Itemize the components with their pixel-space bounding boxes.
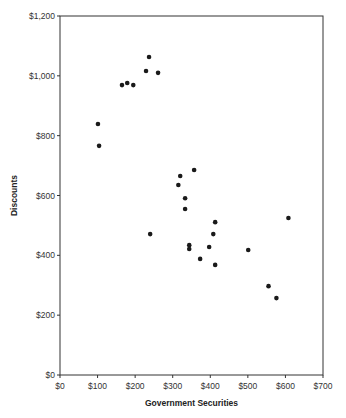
x-tick-label: $500 [238, 381, 257, 391]
y-tick-label: $1,000 [29, 71, 55, 81]
x-tick-label: $600 [276, 381, 295, 391]
data-point-marker [192, 168, 197, 173]
data-point-marker [147, 55, 152, 60]
y-axis: $0$200$400$600$800$1,000$1,200 [29, 11, 60, 380]
data-point-marker [211, 232, 216, 237]
data-point-marker [97, 144, 102, 149]
y-tick-label: $200 [36, 310, 55, 320]
x-tick-label: $0 [55, 381, 65, 391]
x-tick-label: $100 [88, 381, 107, 391]
data-point-marker [213, 263, 218, 268]
x-tick-label: $200 [126, 381, 145, 391]
y-tick-label: $600 [36, 191, 55, 201]
y-tick-label: $1,200 [29, 11, 55, 21]
x-tick-label: $400 [201, 381, 220, 391]
y-tick-label: $0 [46, 370, 56, 380]
y-tick-label: $800 [36, 131, 55, 141]
data-point-marker [266, 284, 271, 289]
x-axis-title: Government Securities [145, 398, 238, 408]
data-point-marker [183, 196, 188, 201]
data-point-marker [274, 296, 279, 301]
data-point-marker [131, 83, 136, 88]
data-point-marker [207, 245, 212, 250]
data-point-marker [187, 247, 192, 252]
data-point-marker [96, 122, 101, 127]
x-axis: $0$100$200$300$400$500$600$700 [55, 375, 332, 391]
plot-area [60, 16, 323, 375]
data-point-marker [125, 81, 130, 86]
data-point-marker [176, 183, 181, 188]
y-tick-label: $400 [36, 250, 55, 260]
data-point-marker [156, 71, 161, 76]
data-point-marker [246, 248, 251, 253]
data-point-marker [120, 83, 125, 88]
y-axis-title: Discounts [9, 175, 19, 216]
data-point-marker [198, 257, 203, 262]
x-tick-label: $300 [163, 381, 182, 391]
data-point-marker [144, 69, 149, 74]
scatter-chart: $0$200$400$600$800$1,000$1,200 $0$100$20… [0, 0, 346, 418]
data-point-marker [183, 207, 188, 212]
x-tick-label: $700 [314, 381, 333, 391]
data-point-marker [148, 232, 153, 237]
data-point-marker [286, 216, 291, 221]
plot-border [60, 16, 323, 375]
data-point-marker [213, 220, 218, 225]
data-point-marker [178, 174, 183, 179]
